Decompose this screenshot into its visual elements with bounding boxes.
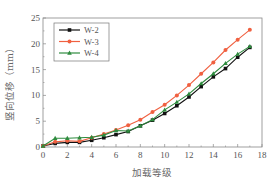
x-axis-ticks: 024681012141618: [41, 144, 267, 160]
line-chart: 024681012141618 0510152025 加载等级 竖向位移（mm）…: [0, 0, 275, 183]
y-tick-label: 0: [36, 142, 41, 152]
x-tick-label: 4: [89, 150, 94, 160]
data-point: [248, 28, 252, 32]
y-tick-label: 15: [31, 65, 41, 75]
data-point: [114, 133, 118, 137]
series-line: [43, 47, 250, 146]
data-point: [126, 123, 130, 127]
x-tick-label: 16: [233, 150, 243, 160]
legend-marker: [68, 40, 72, 44]
y-tick-label: 25: [31, 13, 41, 23]
x-tick-label: 10: [160, 150, 170, 160]
data-point: [175, 100, 180, 104]
data-point: [151, 110, 155, 114]
data-point: [199, 85, 203, 89]
data-point: [187, 95, 191, 99]
y-tick-label: 10: [31, 90, 41, 100]
data-point: [212, 75, 216, 79]
data-point: [175, 104, 179, 108]
y-axis-ticks: 0510152025: [31, 13, 46, 152]
data-point: [138, 118, 142, 122]
x-tick-label: 0: [41, 150, 46, 160]
data-point: [175, 93, 179, 97]
x-tick-label: 12: [185, 150, 194, 160]
data-point: [163, 103, 167, 107]
data-point: [199, 72, 203, 76]
data-point: [78, 139, 82, 143]
x-tick-label: 8: [138, 150, 143, 160]
data-point: [187, 83, 191, 87]
data-point: [224, 67, 228, 71]
legend-label: W-3: [84, 37, 99, 47]
data-point: [53, 140, 57, 144]
data-point: [163, 112, 167, 116]
y-tick-label: 5: [36, 116, 41, 126]
x-tick-label: 6: [114, 150, 119, 160]
data-point: [224, 48, 228, 52]
x-axis-title: 加载等级: [132, 167, 172, 178]
legend: W-2W-3W-4: [54, 23, 109, 61]
y-tick-label: 20: [31, 39, 41, 49]
data-point: [211, 60, 215, 64]
legend-marker: [68, 28, 72, 32]
data-point: [162, 107, 167, 111]
legend-label: W-2: [84, 25, 99, 35]
data-point: [236, 55, 240, 59]
x-tick-label: 18: [258, 150, 268, 160]
data-point: [236, 38, 240, 42]
x-tick-label: 2: [65, 150, 70, 160]
y-axis-title: 竖向位移（mm）: [4, 43, 15, 121]
legend-label: W-4: [84, 48, 99, 58]
data-point: [235, 52, 240, 56]
x-tick-label: 14: [209, 150, 219, 160]
